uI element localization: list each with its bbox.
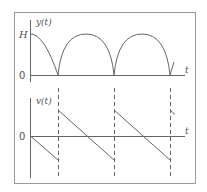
y-curve-segment-4: [170, 62, 174, 75]
top-y-label: y(t): [35, 17, 52, 27]
y-curve-segment-1: [31, 34, 59, 75]
figure-canvas: y(t) H 0 t v(t) 0 t: [0, 0, 207, 192]
v-segment-2: [58, 110, 114, 160]
bottom-zero-tick: 0: [19, 131, 25, 142]
y-curve-segment-2: [58, 34, 114, 75]
top-x-label: t: [185, 65, 189, 75]
bottom-plot: v(t) 0 t: [19, 96, 189, 178]
top-plot: y(t) H 0 t: [18, 17, 189, 82]
bottom-y-label: v(t): [36, 96, 52, 106]
jump-markers: [59, 88, 171, 178]
y-curve-segment-3: [114, 34, 170, 75]
bottom-x-label: t: [185, 126, 189, 136]
v-segment-3: [114, 110, 170, 160]
top-zero-tick: 0: [19, 70, 25, 81]
top-h-tick: H: [18, 29, 28, 40]
v-segment-1: [31, 136, 59, 160]
